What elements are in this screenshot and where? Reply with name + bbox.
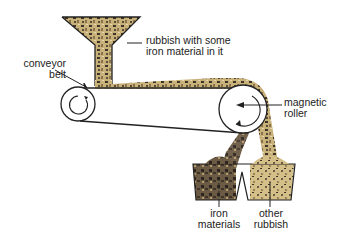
label-iron-materials: iron materials (189, 208, 249, 230)
conveyor-belt (78, 88, 243, 133)
label-conveyor-line2: belt (14, 69, 66, 80)
label-other-rubbish: other rubbish (244, 208, 298, 230)
hopper (62, 17, 140, 88)
drive-roller (61, 87, 95, 121)
label-other-line2: rubbish (244, 219, 298, 230)
label-iron-line2: materials (189, 219, 249, 230)
label-magnetic-roller: magnetic roller (284, 97, 327, 119)
label-roller-line2: roller (284, 108, 327, 119)
label-hopper-line2: iron material in it (146, 46, 231, 57)
magnetic-roller (219, 85, 267, 133)
label-conveyor-belt: conveyor belt (14, 58, 66, 80)
collection-bins (193, 155, 295, 200)
label-hopper: rubbish with some iron material in it (146, 35, 231, 57)
